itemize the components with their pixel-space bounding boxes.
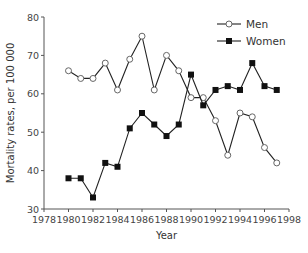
x-tick-label: 1996 (252, 214, 276, 225)
filled-square-marker (237, 87, 243, 93)
filled-square-marker (139, 110, 145, 116)
open-circle-marker (66, 68, 72, 74)
open-circle-marker (176, 68, 182, 74)
series-women (66, 60, 280, 200)
y-tick-label: 70 (27, 50, 39, 61)
x-tick-label: 1992 (203, 214, 227, 225)
open-circle-marker (225, 152, 231, 158)
open-circle-marker (249, 114, 255, 120)
open-circle-marker (115, 87, 121, 93)
filled-square-marker (200, 102, 206, 108)
legend-item-women: Women (217, 35, 286, 47)
series-men (66, 33, 280, 166)
open-circle-marker (139, 33, 145, 39)
x-tick-label: 1980 (56, 214, 80, 225)
open-circle-marker (151, 87, 157, 93)
legend: MenWomen (217, 18, 286, 47)
legend-label: Men (246, 18, 268, 30)
filled-square-marker (213, 87, 219, 93)
y-tick-label: 40 (27, 165, 39, 176)
filled-square-marker (127, 125, 133, 131)
open-circle-marker (164, 52, 170, 58)
legend-item-men: Men (217, 18, 268, 30)
x-tick-label: 1990 (179, 214, 203, 225)
x-tick-label: 1982 (81, 214, 105, 225)
x-tick-label: 1984 (105, 214, 129, 225)
y-tick-label: 30 (27, 204, 39, 215)
open-circle-marker (78, 75, 84, 81)
open-circle-marker (90, 75, 96, 81)
y-tick-label: 80 (27, 12, 39, 23)
x-tick-label: 1994 (228, 214, 252, 225)
x-tick-label: 1998 (277, 214, 301, 225)
open-circle-marker (127, 56, 133, 62)
open-circle-marker (262, 145, 268, 151)
y-axis-title: Mortality rates, per 100 000 (5, 43, 16, 184)
open-circle-marker (274, 160, 280, 166)
series-line (69, 36, 277, 163)
filled-square-marker (164, 133, 170, 139)
filled-square-marker (262, 83, 268, 89)
filled-square-marker (176, 122, 182, 128)
filled-square-marker (225, 83, 231, 89)
x-tick-label: 1978 (32, 214, 56, 225)
x-tick-label: 1986 (130, 214, 154, 225)
filled-square-marker (90, 194, 96, 200)
filled-square-marker (102, 160, 108, 166)
filled-square-marker (78, 175, 84, 181)
x-axis-title: Year (155, 230, 178, 241)
mortality-line-chart: 3040506070801978198019821984198619881990… (0, 0, 308, 253)
filled-square-marker (249, 60, 255, 66)
y-tick-label: 60 (27, 88, 39, 99)
filled-square-marker (274, 87, 280, 93)
open-circle-marker (188, 95, 194, 101)
y-tick-label: 50 (27, 127, 39, 138)
filled-square-marker (115, 164, 121, 170)
filled-square-marker (226, 38, 232, 44)
x-tick-label: 1988 (154, 214, 178, 225)
open-circle-marker (226, 21, 232, 27)
open-circle-marker (213, 118, 219, 124)
legend-label: Women (246, 35, 286, 47)
open-circle-marker (102, 60, 108, 66)
filled-square-marker (188, 72, 194, 78)
open-circle-marker (237, 110, 243, 116)
filled-square-marker (66, 175, 72, 181)
series-line (69, 63, 277, 197)
series-layer (66, 33, 280, 200)
filled-square-marker (151, 122, 157, 128)
